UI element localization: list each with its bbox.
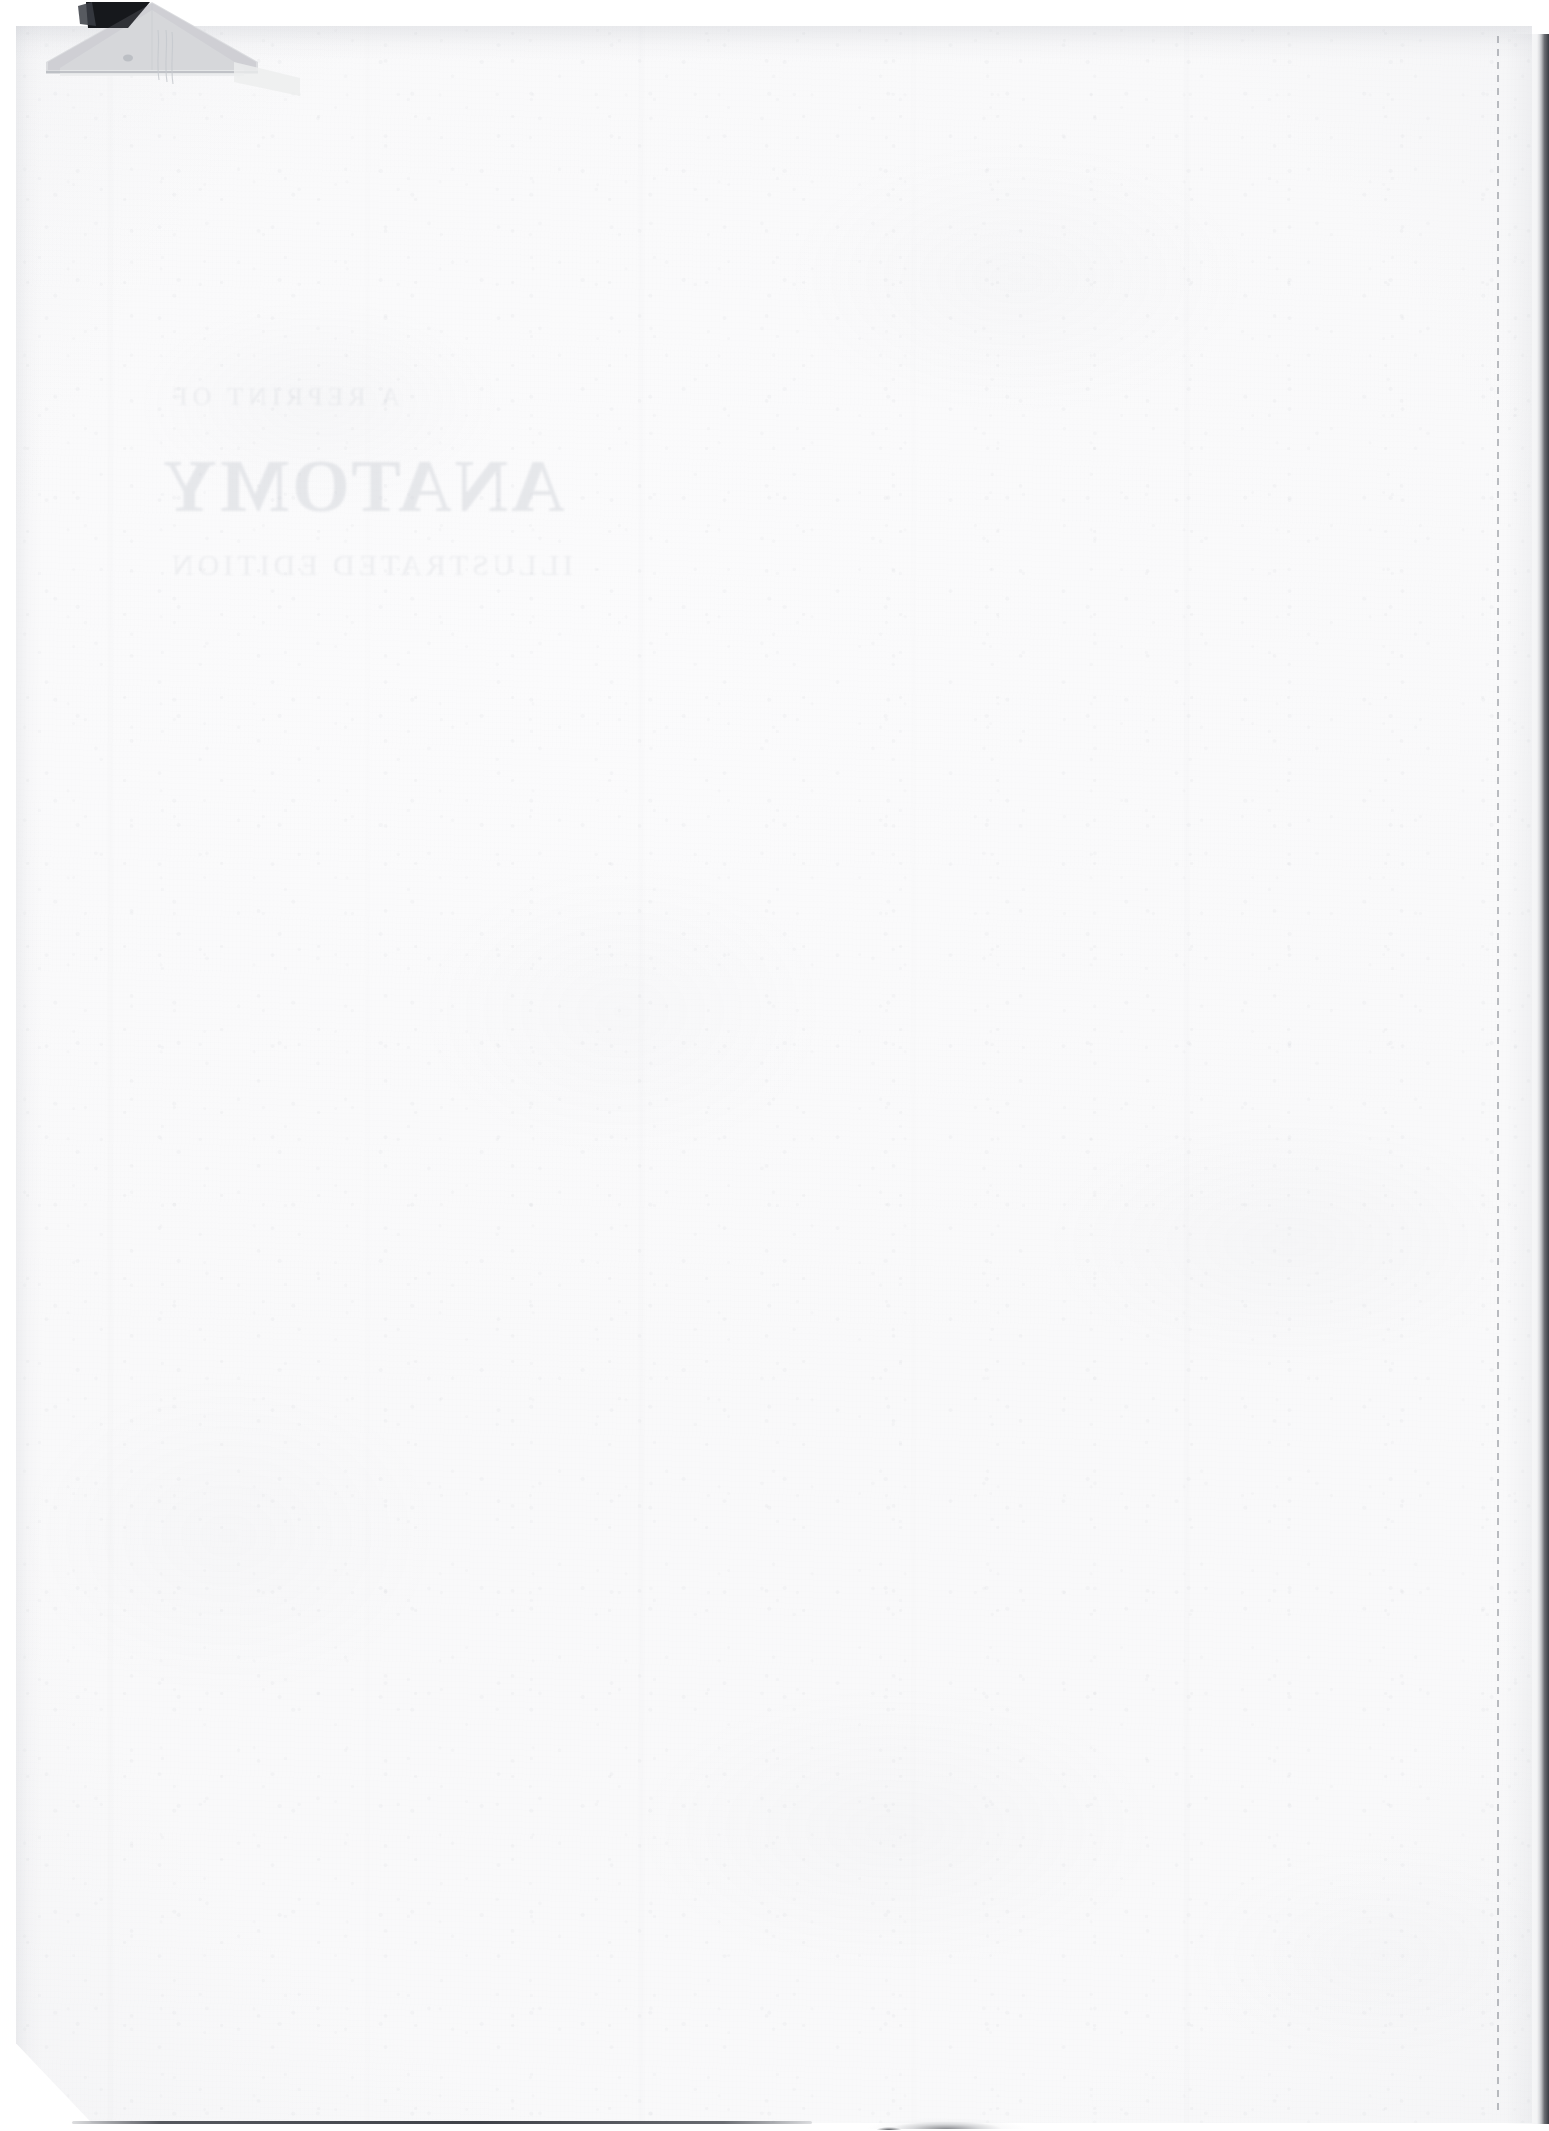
left-gutter-shadow [16,26,42,2123]
paper-grain-speckle [16,26,1532,2123]
right-margin-dashed-line [1497,36,1499,2116]
scan-streaks [16,26,1532,2123]
top-edge-shadow [16,26,1532,60]
paper-grain-fiber [16,26,1532,2123]
right-edge-soft-shadow [1505,34,1541,2124]
page-vignette [16,26,1532,2123]
right-edge-shadow [1537,34,1549,2124]
paper-grain-mottle [16,26,1532,2123]
fold-notch-dark [86,2,150,28]
scanned-page-canvas: A REPRINT OF ANATOMY ILLUSTRATED EDITION [0,0,1549,2131]
paper-sheet [16,26,1532,2123]
bottom-edge-dark-line [72,2121,812,2124]
fold-notch-edge [78,2,96,26]
bottom-edge-smudge-core [872,2122,906,2130]
